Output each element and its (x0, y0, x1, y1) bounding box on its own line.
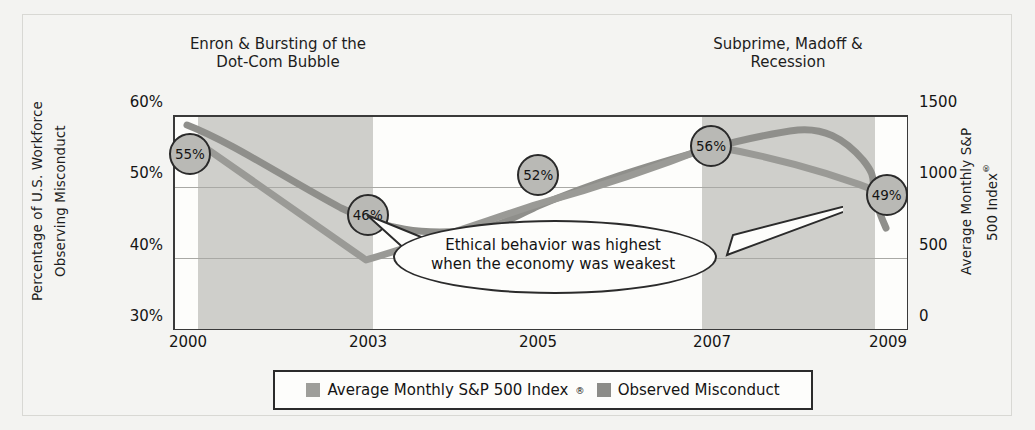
misconduct-value-2005: 52% (523, 167, 553, 183)
misconduct-marker-2009: 49% (866, 174, 908, 216)
left-axis-title-line2: Observing Misconduct (52, 125, 68, 277)
right-axis-title-line2: 500 Index (984, 173, 1000, 241)
legend-label-misconduct: Observed Misconduct (618, 381, 780, 399)
right-tick-1000-text: 1000 (919, 164, 957, 182)
misconduct-marker-2007: 56% (690, 125, 732, 167)
misconduct-value-2009: 49% (872, 187, 902, 203)
x-tick-2007: 2007 (669, 333, 755, 351)
callout-text: Ethical behavior was highest when the ec… (393, 220, 713, 290)
legend-item-sp500[interactable]: Average Monthly S&P 500 Index® (306, 381, 584, 399)
left-axis-title: Percentage of U.S. Workforce (29, 87, 46, 315)
band-label-enron-line2: Dot-Com Bubble (133, 53, 423, 71)
misconduct-value-2000: 55% (175, 146, 205, 162)
x-tick-2000: 2000 (145, 333, 231, 351)
chart-frame: Percentage of U.S. Workforce Observing M… (22, 14, 1012, 416)
left-tick-30: 30% (101, 307, 163, 325)
band-label-subprime-line1: Subprime, Madoff & (643, 35, 933, 53)
left-tick-30-text: 30% (130, 307, 163, 325)
misconduct-value-2007: 56% (696, 138, 726, 154)
right-tick-1500: 1500 (919, 93, 979, 111)
legend-swatch-sp500 (306, 383, 320, 397)
right-tick-500: 500 (919, 236, 979, 254)
x-tick-2009-text: 2009 (869, 333, 907, 351)
chart-page: Percentage of U.S. Workforce Observing M… (0, 0, 1035, 430)
left-tick-60-text: 60% (130, 93, 163, 111)
band-label-enron-line1: Enron & Bursting of the (133, 35, 423, 53)
left-tick-40: 40% (101, 236, 163, 254)
left-axis-subtitle: Observing Misconduct (52, 87, 69, 315)
callout-bubble: Ethical behavior was highest when the ec… (393, 220, 713, 290)
left-tick-50-text: 50% (130, 164, 163, 182)
right-tick-1500-text: 1500 (919, 93, 957, 111)
x-tick-2003-text: 2003 (349, 333, 387, 351)
right-tick-1000: 1000 (919, 164, 979, 182)
right-tick-0-text: 0 (919, 307, 929, 325)
band-label-enron: Enron & Bursting of the Dot-Com Bubble (133, 35, 423, 72)
legend-label-sp500: Average Monthly S&P 500 Index (327, 381, 568, 399)
x-tick-2000-text: 2000 (169, 333, 207, 351)
callout-text-line2: when the economy was weakest (431, 255, 675, 275)
chart-legend: Average Monthly S&P 500 Index® Observed … (273, 370, 813, 410)
callout-text-line1: Ethical behavior was highest (445, 236, 661, 256)
x-tick-2005-text: 2005 (519, 333, 557, 351)
right-axis-title: Average Monthly S&P (958, 87, 975, 315)
left-tick-50: 50% (101, 164, 163, 182)
x-tick-2005: 2005 (495, 333, 581, 351)
left-tick-60: 60% (101, 93, 163, 111)
registered-mark: ® (981, 163, 991, 173)
left-tick-40-text: 40% (130, 236, 163, 254)
x-tick-2007-text: 2007 (693, 333, 731, 351)
legend-item-misconduct[interactable]: Observed Misconduct (597, 381, 780, 399)
right-tick-500-text: 500 (919, 236, 948, 254)
misconduct-marker-2000: 55% (169, 133, 211, 175)
x-tick-2003: 2003 (325, 333, 411, 351)
legend-registered-mark: ® (575, 385, 584, 396)
legend-swatch-misconduct (597, 383, 611, 397)
right-axis-subtitle: 500 Index® (981, 97, 1000, 307)
callout-tail-right (727, 195, 843, 255)
band-label-subprime-line2: Recession (643, 53, 933, 71)
band-label-subprime: Subprime, Madoff & Recession (643, 35, 933, 72)
right-tick-0: 0 (919, 307, 979, 325)
x-tick-2009: 2009 (845, 333, 931, 351)
left-axis-title-line1: Percentage of U.S. Workforce (29, 101, 45, 301)
